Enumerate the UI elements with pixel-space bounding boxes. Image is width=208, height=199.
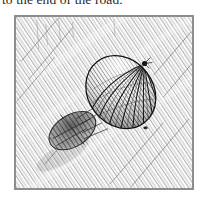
page-root: to the end of the road. [0, 0, 208, 199]
ballast-dot [143, 126, 147, 129]
page-caption-text: to the end of the road. [2, 0, 123, 7]
caption-clip-region: to the end of the road. [0, 0, 208, 9]
illustration-frame [14, 15, 194, 190]
balloon-illustration [15, 16, 193, 189]
